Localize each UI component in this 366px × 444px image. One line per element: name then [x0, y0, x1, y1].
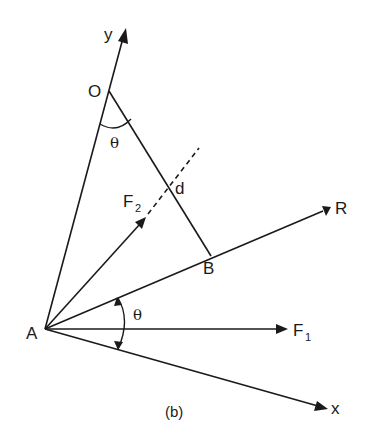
f1-arrowhead: [276, 324, 288, 334]
label-theta-o: θ: [110, 134, 119, 152]
label-x: x: [331, 399, 340, 418]
label-a: A: [26, 324, 38, 343]
figure-caption: (b): [165, 403, 183, 420]
ob-perpendicular-line: [109, 91, 211, 256]
label-o: O: [88, 82, 101, 101]
label-d: d: [175, 179, 184, 198]
r-arrowhead: [322, 206, 331, 216]
x-axis-line: [45, 329, 318, 406]
label-f2: F: [123, 192, 133, 211]
force-diagram: y O θ d F 2 R B θ A F 1 x (b): [0, 0, 366, 444]
label-f1: F: [293, 321, 303, 340]
label-r: R: [335, 199, 347, 218]
x-axis-arrowhead: [314, 401, 328, 411]
label-y: y: [104, 25, 113, 44]
label-b: B: [203, 259, 214, 278]
r-vector-line: [45, 211, 323, 329]
label-theta-a: θ: [133, 306, 142, 324]
y-axis-arrowhead: [118, 28, 128, 44]
angle-arc-a: [118, 298, 125, 349]
label-f2-subscript: 2: [135, 202, 141, 214]
label-f1-subscript: 1: [305, 331, 311, 343]
f2-line-of-action-dashed: [148, 148, 199, 214]
